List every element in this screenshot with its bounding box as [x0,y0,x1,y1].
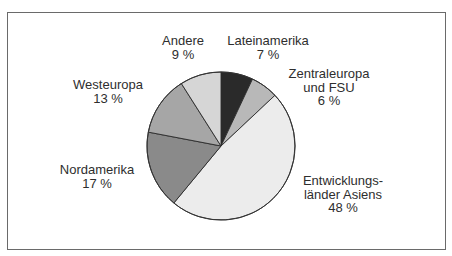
label-nordamerika-value: 17 % [60,177,134,191]
label-nordamerika-name: Nordamerika [60,163,134,177]
label-westeuropa-name: Westeuropa [73,78,143,92]
label-zentraleuropa-name-1: Zentraleuropa [289,67,370,81]
label-andere-value: 9 % [162,48,204,62]
label-westeuropa: Westeuropa 13 % [73,78,143,105]
label-lateinamerika-name: Lateinamerika [227,34,309,48]
label-asien-name-1: Entwicklungs- [303,174,383,188]
label-lateinamerika: Lateinamerika 7 % [227,34,309,61]
label-asien-value: 48 % [303,201,383,214]
pie-slices [147,72,295,220]
label-lateinamerika-value: 7 % [227,48,309,62]
label-nordamerika: Nordamerika 17 % [60,163,134,190]
label-andere: Andere 9 % [162,34,204,61]
label-asien-name-2: länder Asiens [303,188,383,202]
label-andere-name: Andere [162,34,204,48]
label-zentraleuropa-name-2: und FSU [289,81,370,95]
label-zentraleuropa-value: 6 % [289,94,370,108]
label-zentraleuropa: Zentraleuropa und FSU 6 % [289,67,370,108]
pie-chart [0,0,452,256]
label-asien: Entwicklungs- länder Asiens 48 % [303,174,383,214]
label-westeuropa-value: 13 % [73,92,143,106]
